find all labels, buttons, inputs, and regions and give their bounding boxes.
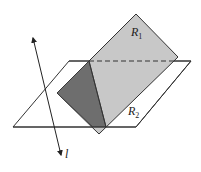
label-axis-l: l — [65, 147, 69, 161]
solid-of-revolution-diagram: R1 R2 l — [0, 0, 201, 172]
